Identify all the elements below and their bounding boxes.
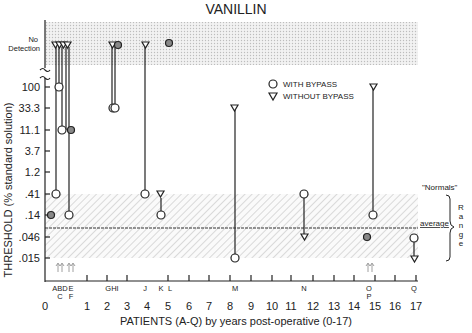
patient-label-ghi: GHI xyxy=(105,284,118,293)
y-tick-0-046: .046 xyxy=(19,231,40,243)
patient-label-k: K xyxy=(158,284,163,293)
y-tick-33: 33.3 xyxy=(19,102,40,114)
legend: WITH BYPASS WITHOUT BYPASS xyxy=(269,80,354,101)
patient-labels: ABD C E F GHI J K L M N O P Q xyxy=(52,284,417,301)
normals-label: "Normals" xyxy=(422,183,458,192)
x-tick-8: 8 xyxy=(227,300,233,312)
legend-circle-icon xyxy=(269,80,277,88)
circle-marker-m xyxy=(231,254,239,262)
x-tick-5: 5 xyxy=(165,300,171,312)
circle-marker-b xyxy=(55,83,63,91)
circle-marker-h xyxy=(111,104,119,112)
x-tick-labels: 0 1 2 3 4 5 6 7 8 9 10 11 12 13 14 15 16… xyxy=(42,300,422,312)
x-tick-1: 1 xyxy=(84,300,90,312)
x-tick-0: 0 xyxy=(42,300,48,312)
range-label-r: R xyxy=(458,203,464,212)
y-tick-3-7: 3.7 xyxy=(25,145,40,157)
y-axis-label: THRESHOLD (% standard solution) xyxy=(2,103,14,278)
y-tick-1-2: 1.2 xyxy=(25,166,40,178)
circle-marker-f xyxy=(65,211,73,219)
legend-with-bypass: WITH BYPASS xyxy=(283,80,337,89)
circle-marker-d xyxy=(58,126,66,134)
y-tick-no-detection: NoDetection xyxy=(8,35,40,53)
triangle-marker xyxy=(370,84,377,90)
patient-label-n: N xyxy=(301,284,306,293)
triangle-marker xyxy=(231,105,238,111)
patient-label-c: C xyxy=(57,292,63,301)
small-arrows xyxy=(56,263,374,272)
circle-marker-e xyxy=(68,127,75,134)
patient-label-j: J xyxy=(143,284,147,293)
range-label-e: e xyxy=(459,239,464,248)
legend-triangle-icon xyxy=(269,93,277,100)
x-tick-9: 9 xyxy=(248,300,254,312)
x-tick-13: 13 xyxy=(328,300,340,312)
x-tick-17: 17 xyxy=(410,300,422,312)
patient-label-m: M xyxy=(232,284,238,293)
range-brace xyxy=(446,195,454,261)
circle-marker-a xyxy=(48,212,55,219)
circle-marker-n xyxy=(300,190,308,198)
legend-without-bypass: WITHOUT BYPASS xyxy=(283,92,354,101)
circle-marker-l xyxy=(166,40,173,47)
patient-label-l: L xyxy=(168,284,172,293)
x-tick-3: 3 xyxy=(124,300,130,312)
x-tick-11: 11 xyxy=(285,300,296,312)
no-detection-zone xyxy=(45,22,418,65)
x-axis-label: PATIENTS (A-Q) by years post-operative (… xyxy=(120,315,352,327)
x-tick-12: 12 xyxy=(307,300,319,312)
x-axis xyxy=(45,275,418,281)
y-tick-100: 100 xyxy=(22,81,40,93)
range-label-n: n xyxy=(459,221,463,230)
chart-title: VANILLIN xyxy=(205,1,266,17)
range-label-g: g xyxy=(459,230,463,239)
normals-range-zone xyxy=(45,194,418,258)
x-tick-2: 2 xyxy=(104,300,110,312)
circle-marker-o xyxy=(369,211,377,219)
circle-marker-i xyxy=(115,42,122,49)
range-annotation: "Normals" average R a n g e xyxy=(420,183,464,261)
circle-marker-q xyxy=(410,234,418,242)
y-tick-0-41: .41 xyxy=(25,188,40,200)
circle-marker-j xyxy=(141,190,149,198)
vanillin-threshold-chart: VANILLIN NoDetection 100 33.3 11.1 3.7 1… xyxy=(0,0,472,333)
triangle-marker xyxy=(411,256,418,262)
x-tick-6: 6 xyxy=(186,300,192,312)
x-tick-16: 16 xyxy=(389,300,401,312)
x-tick-14: 14 xyxy=(348,300,360,312)
y-tick-11: 11.1 xyxy=(19,124,40,136)
x-tick-4: 4 xyxy=(144,300,150,312)
x-tick-7: 7 xyxy=(206,300,212,312)
circle-marker-k xyxy=(157,211,165,219)
x-tick-10: 10 xyxy=(266,300,278,312)
y-tick-0-14: .14 xyxy=(25,209,40,221)
circle-marker-p xyxy=(364,234,371,241)
circle-marker-c xyxy=(52,190,60,198)
patient-label-q: Q xyxy=(411,284,417,293)
average-label: average xyxy=(420,219,449,228)
patient-label-f: F xyxy=(69,292,74,301)
y-tick-0-015: .015 xyxy=(19,252,40,264)
x-tick-15: 15 xyxy=(369,300,381,312)
range-label-a: a xyxy=(459,212,464,221)
